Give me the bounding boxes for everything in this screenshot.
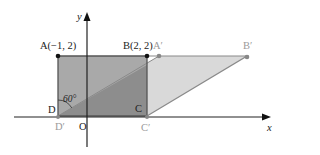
angle-label: 60° bbox=[63, 95, 76, 105]
point-A-prime bbox=[157, 54, 162, 59]
point-B bbox=[145, 54, 150, 59]
label-D: D bbox=[48, 105, 56, 116]
point-A bbox=[56, 54, 61, 59]
label-B: B(2, 2) bbox=[123, 41, 153, 52]
label-D-prime: D′ bbox=[55, 122, 65, 133]
x-axis-label: x bbox=[267, 123, 272, 134]
origin-label: O bbox=[79, 122, 87, 133]
label-C-prime: C′ bbox=[141, 123, 150, 134]
y-axis-label: y bbox=[77, 12, 82, 23]
point-B-prime bbox=[245, 55, 250, 60]
label-A: A(−1, 2) bbox=[40, 41, 76, 52]
point-C-prime bbox=[145, 115, 149, 119]
y-axis-arrow-icon bbox=[84, 12, 91, 21]
point-D-prime bbox=[56, 115, 60, 119]
label-C: C bbox=[135, 104, 142, 115]
x-axis-arrow-icon bbox=[262, 114, 271, 121]
label-A-prime: A′ bbox=[153, 41, 163, 52]
label-B-prime: B′ bbox=[243, 41, 252, 52]
